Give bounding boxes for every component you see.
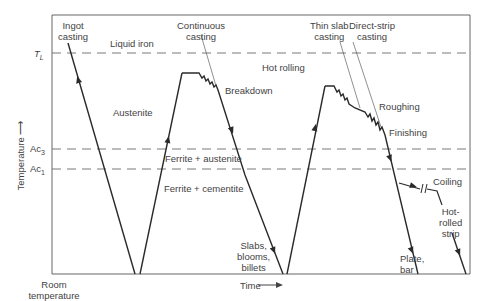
continuous-casting-label: Continuouscasting	[177, 20, 225, 42]
ferrite-cementite-label: Ferrite + cementite	[164, 183, 243, 194]
reheat-path-1	[140, 73, 182, 274]
roughing-label: Roughing	[379, 101, 420, 112]
ferrite-austenite-label: Ferrite + austenite	[165, 153, 242, 164]
plate-bar-label: Plate,bar	[400, 253, 424, 275]
coiling-path	[399, 183, 420, 189]
room-temperature-label: Room temperature	[28, 279, 80, 301]
ac3-label: Ac3	[30, 143, 45, 158]
hot-rolling-label: Hot rolling	[262, 62, 305, 73]
liquid-iron-label: Liquid iron	[110, 38, 154, 49]
hot-rolled-strip-label: Hot-rolledstrip	[439, 206, 462, 239]
time-label: Time	[240, 280, 261, 291]
direct-strip-label: Direct-stripcasting	[349, 20, 395, 42]
time-arrow-icon	[276, 282, 283, 288]
ac1-label: Ac1	[30, 163, 45, 178]
roughing-finishing-path	[325, 86, 418, 274]
coiling-label: Coiling	[433, 176, 462, 187]
plot-frame	[52, 15, 470, 274]
y-axis-label: Temperature ⟶	[15, 121, 26, 191]
finishing-label: Finishing	[389, 127, 427, 138]
austenite-label: Austenite	[113, 107, 153, 118]
tl-label: TL	[34, 48, 44, 63]
breakdown-label: Breakdown	[225, 85, 273, 96]
reheat-path-2	[287, 86, 325, 274]
thin-slab-label: Thin slabcasting	[310, 20, 349, 42]
ingot-casting-label: Ingotcasting	[58, 20, 88, 42]
slabs-label: Slabs,blooms,billets	[237, 240, 270, 273]
